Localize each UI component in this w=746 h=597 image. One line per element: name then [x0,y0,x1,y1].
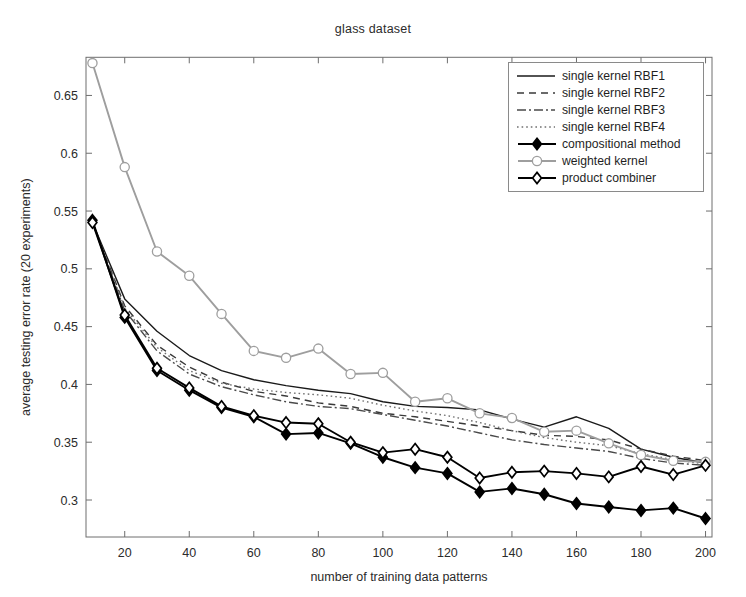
legend-item-label: single kernel RBF2 [562,85,665,101]
legend-item-label: product combiner [562,170,656,186]
data-point-marker [411,397,420,406]
legend-swatch [515,119,559,135]
data-point-marker [604,501,613,512]
legend-item-label: single kernel RBF1 [562,68,665,84]
y-tick-label: 0.5 [61,262,78,276]
data-point-marker [508,467,517,478]
data-point-marker [475,486,484,497]
legend-item-weighted-kernel[interactable]: weighted kernel [515,152,696,169]
data-point-marker [249,346,258,355]
data-point-marker [507,413,516,422]
data-point-marker [152,247,161,256]
data-point-marker [443,394,452,403]
legend-item-label: weighted kernel [562,153,647,169]
data-point-marker [346,369,355,378]
data-point-marker [533,138,542,149]
series-line [92,223,705,465]
data-point-marker [443,468,452,479]
data-point-marker [701,513,710,524]
legend-swatch [515,136,559,152]
data-point-marker [572,498,581,509]
legend-swatch [515,68,559,84]
data-point-marker [314,344,323,353]
x-tick-label: 40 [182,546,196,560]
legend-swatch [515,102,559,118]
x-tick-label: 140 [502,546,523,560]
series-line [92,223,705,466]
series-compositional-method [88,215,710,524]
x-tick-label: 60 [247,546,261,560]
legend-swatch [515,85,559,101]
y-tick-label: 0.6 [61,147,78,161]
y-axis-label: average testing error rate (20 experimen… [19,178,33,416]
x-axis-label: number of training data patterns [310,570,487,584]
x-tick-label: 200 [695,546,716,560]
x-tick-label: 120 [437,546,458,560]
data-point-marker [314,418,323,429]
data-point-marker [604,439,613,448]
y-tick-label: 0.65 [54,89,78,103]
y-tick-label: 0.55 [54,205,78,219]
series-line [92,223,705,461]
data-point-marker [540,489,549,500]
data-point-marker [572,426,581,435]
series-single-kernel-rbf1 [92,223,705,463]
legend-item-label: single kernel RBF3 [562,102,665,118]
data-point-marker [282,417,291,428]
series-line [92,223,705,478]
x-tick-label: 100 [372,546,393,560]
series-line [92,220,705,518]
data-point-marker [540,466,549,477]
series-single-kernel-rbf2 [92,223,705,461]
data-point-marker [378,368,387,377]
x-tick-label: 160 [566,546,587,560]
data-point-marker [281,353,290,362]
data-point-marker [669,469,678,480]
legend-item-single-kernel-rbf3[interactable]: single kernel RBF3 [515,101,696,118]
data-point-marker [637,461,646,472]
legend-swatch [515,153,559,169]
legend-item-single-kernel-rbf4[interactable]: single kernel RBF4 [515,118,696,135]
data-point-marker [475,472,484,483]
x-tick-label: 20 [118,546,132,560]
figure-glass-dataset: glass dataset 20406080100120140160180200… [0,0,746,597]
data-point-marker [282,429,291,440]
x-tick-label: 80 [311,546,325,560]
data-point-marker [669,456,678,465]
series-single-kernel-rbf3 [92,223,705,466]
y-tick-label: 0.4 [61,378,78,392]
legend-item-single-kernel-rbf2[interactable]: single kernel RBF2 [515,84,696,101]
data-point-marker [572,468,581,479]
y-tick-label: 0.3 [61,494,78,508]
data-point-marker [508,483,517,494]
series-single-kernel-rbf4 [92,223,705,465]
series-line [92,223,705,463]
legend-item-label: single kernel RBF4 [562,119,665,135]
data-point-marker [532,156,541,165]
data-point-marker [443,452,452,463]
data-point-marker [411,444,420,455]
data-point-marker [88,58,97,67]
data-point-marker [636,450,645,459]
legend-item-compositional-method[interactable]: compositional method [515,135,696,152]
data-point-marker [637,505,646,516]
legend-item-product-combiner[interactable]: product combiner [515,169,696,186]
legend-item-single-kernel-rbf1[interactable]: single kernel RBF1 [515,67,696,84]
y-tick-label: 0.35 [54,436,78,450]
data-point-marker [540,427,549,436]
data-point-marker [533,172,542,183]
data-point-marker [604,471,613,482]
data-point-marker [120,163,129,172]
data-point-marker [411,462,420,473]
y-tick-label: 0.45 [54,320,78,334]
legend: single kernel RBF1single kernel RBF2sing… [508,62,704,192]
data-point-marker [217,309,226,318]
legend-item-label: compositional method [562,136,681,152]
legend-swatch [515,170,559,186]
data-point-marker [185,271,194,280]
x-tick-label: 180 [631,546,652,560]
data-point-marker [669,503,678,514]
data-point-marker [475,409,484,418]
